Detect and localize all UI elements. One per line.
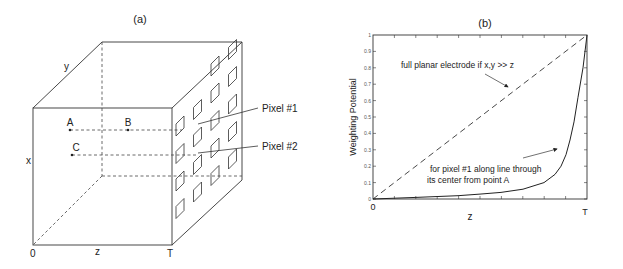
origin-label: 0: [30, 248, 36, 259]
planar-arrow: [485, 74, 508, 87]
planar-annotation: full planar electrode if x,y >> z: [401, 60, 514, 70]
point-b-label: B: [125, 117, 132, 128]
pixel-1-leader: [198, 108, 258, 124]
pixel-annotation-line1: for pixel #1 along line through: [430, 164, 542, 174]
pixel-arrow: [523, 149, 557, 158]
point-a-label: A: [67, 117, 74, 128]
svg-text:0.4: 0.4: [364, 130, 371, 136]
svg-text:0.3: 0.3: [364, 147, 371, 153]
pixel-annotation-line2: its center from point A: [427, 175, 510, 185]
point-c: [71, 154, 74, 157]
panel-b: (b): [348, 17, 588, 222]
svg-text:0.2: 0.2: [364, 163, 371, 169]
x-end-label: T: [582, 207, 588, 217]
svg-text:0.5: 0.5: [364, 114, 371, 120]
y-axis-title: Weighting Potential: [348, 78, 358, 155]
point-a: [69, 129, 72, 132]
thickness-label: T: [167, 248, 173, 259]
panel-a-title: (a): [133, 13, 146, 25]
y-tick-labels: 0 0.1 0.2 0.3 0.4 0.5 0.6 0.7 0.8 0.9 1: [364, 32, 371, 202]
svg-text:1: 1: [368, 32, 371, 38]
point-b: [127, 129, 130, 132]
pixel-grid: [176, 40, 237, 219]
svg-text:0.9: 0.9: [364, 48, 371, 54]
panel-a: (a): [26, 13, 298, 259]
x-axis-label: x: [26, 155, 31, 166]
svg-text:0.7: 0.7: [364, 81, 371, 87]
x-axis-title: z: [468, 211, 473, 222]
panel-b-title: (b): [478, 17, 491, 29]
y-axis-label: y: [64, 61, 69, 72]
svg-text:0.1: 0.1: [364, 180, 371, 186]
pixel-2-leader: [198, 146, 258, 153]
figure-canvas: (a): [0, 0, 623, 269]
svg-text:0.6: 0.6: [364, 98, 371, 104]
svg-text:0.8: 0.8: [364, 65, 371, 71]
x-start-label: 0: [370, 202, 375, 212]
pixel-2-label: Pixel #2: [262, 141, 298, 152]
z-axis-label: z: [95, 246, 100, 257]
point-c-label: C: [72, 142, 79, 153]
pixel-1-label: Pixel #1: [262, 103, 298, 114]
